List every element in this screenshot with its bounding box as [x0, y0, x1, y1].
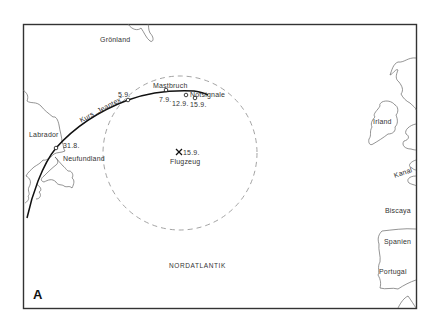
label-date-7-9: 7.9.: [159, 96, 171, 103]
label-biscay: Biscaya: [385, 207, 411, 214]
label-ocean: NORDATLANTIK: [169, 263, 226, 270]
label-newfoundland: Neufundland: [63, 155, 105, 162]
greenland-coast: [128, 24, 153, 41]
label-date-31-8: 31.8.: [63, 142, 80, 149]
brittany-coast: [408, 176, 416, 186]
map-canvas: [0, 0, 437, 328]
label-aircraft-date: 15.9.: [183, 149, 200, 156]
x-mark-icon: [176, 149, 182, 155]
panel-label: A: [33, 287, 42, 302]
gulf-coast: [25, 176, 30, 203]
label-spain: Spanien: [384, 238, 411, 245]
route-point-12-9: [184, 93, 188, 97]
britain-coast: [390, 58, 416, 110]
label-ireland: Irland: [373, 118, 392, 125]
route-point-5-9: [126, 98, 130, 102]
label-portugal: Portugal: [379, 268, 407, 275]
label-labrador: Labrador: [29, 131, 59, 138]
gibraltar-coast: [398, 296, 416, 308]
label-date-12-9: 12.9.: [172, 100, 189, 107]
route-point-31-8: [54, 146, 58, 150]
label-distress: Notsignale: [190, 91, 225, 98]
britain-coast-south: [403, 124, 416, 150]
label-date-5-9: 5.9.: [118, 91, 130, 98]
label-greenland: Grönland: [100, 36, 130, 43]
label-dismasting: Mastbruch: [153, 82, 187, 89]
label-aircraft: Flugzeug: [170, 158, 200, 165]
label-date-15-9: 15.9.: [190, 101, 207, 108]
